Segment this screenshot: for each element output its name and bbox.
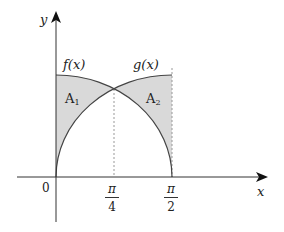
y-axis-label: y [40,13,47,26]
g-curve-label: g(x) [133,58,159,71]
x-axis-label: x [257,185,264,198]
region-a1-label: A1 [65,92,79,107]
tick-pi-over-2: π 2 [164,183,178,213]
origin-label: 0 [42,182,50,194]
tick-pi-over-4: π 4 [105,183,119,213]
f-curve-label: f(x) [63,58,85,71]
diagram-canvas [0,0,284,232]
region-a2-label: A2 [146,92,160,107]
region-a2-shade [114,75,172,177]
